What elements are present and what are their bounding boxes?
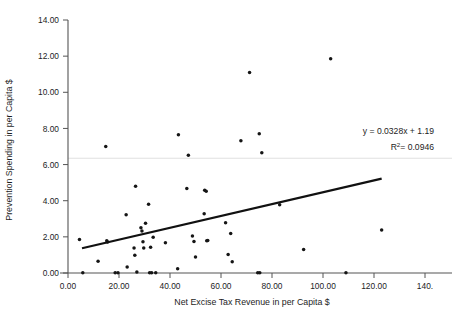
x-tick-label: 140. [417,281,433,291]
data-point [96,260,100,264]
data-point [224,221,228,225]
y-tick-label: 4.00 [43,196,60,206]
data-point [344,271,348,275]
x-tick-label: 40.00 [160,281,181,291]
y-axis-ticks [63,20,68,273]
y-tick-label: 0.00 [43,268,60,278]
data-point [134,185,138,189]
r-squared-suffix: = 0.0946 [400,142,434,152]
data-point [147,203,151,207]
y-axis-title: Prevention Spending in per Capita $ [4,79,14,220]
x-axis-tick-labels: 0.0020.0040.0060.0080.00100.00120.00140. [60,281,433,291]
data-point [226,253,230,257]
x-tick-label: 60.00 [211,281,232,291]
data-point [258,271,262,275]
data-point [194,255,198,259]
data-point [135,270,139,274]
data-point [142,246,146,250]
data-point [140,229,144,233]
data-point [329,57,333,61]
data-point [149,246,153,250]
data-point [133,254,137,257]
data-point [139,226,143,230]
scatter-chart: 0.0020.0040.0060.0080.00100.00120.00140.… [0,0,452,314]
x-axis-ticks [68,273,425,278]
data-point [258,132,262,136]
data-point [104,145,108,149]
data-point [177,133,181,137]
y-tick-label: 8.00 [43,124,60,134]
data-point [191,234,195,238]
x-tick-label: 20.00 [109,281,130,291]
x-tick-label: 0.00 [60,281,77,291]
y-axis-tick-labels: 0.002.004.006.008.0010.0012.0014.00 [38,15,59,278]
y-tick-label: 12.00 [38,51,59,61]
data-point [150,271,154,275]
x-tick-label: 120.00 [361,281,387,291]
data-point [164,241,168,245]
x-tick-label: 80.00 [262,281,283,291]
y-tick-label: 2.00 [43,232,60,242]
x-axis-title: Net Excise Tax Revenue in per Capita $ [174,297,329,307]
regression-equation-label: y = 0.0328x + 1.19 [363,126,434,136]
data-point [78,238,82,242]
r-squared-label: R2= 0.0946 [391,141,435,152]
chart-canvas: 0.0020.0040.0060.0080.00100.00120.00140.… [0,0,452,314]
data-point [125,265,129,269]
y-tick-label: 6.00 [43,160,60,170]
data-point [380,228,384,232]
data-point [192,240,196,244]
data-point [202,212,206,216]
data-point [81,271,85,275]
data-point [151,235,155,239]
x-tick-label: 100.00 [310,281,336,291]
data-points [78,57,384,274]
data-point [124,213,128,217]
y-tick-label: 10.00 [38,87,59,97]
data-point [144,222,148,226]
data-point [239,139,243,143]
data-point [229,232,233,236]
data-point [132,246,136,250]
data-point [204,190,208,194]
data-point [185,187,189,191]
data-point [248,71,252,75]
y-tick-label: 14.00 [38,15,59,25]
data-point [154,271,158,275]
data-point [260,151,264,155]
data-point [116,271,120,275]
data-point [206,239,210,243]
data-point [230,260,234,264]
data-point [176,267,180,271]
data-point [187,153,191,157]
data-point [141,240,145,244]
data-point [302,248,306,252]
